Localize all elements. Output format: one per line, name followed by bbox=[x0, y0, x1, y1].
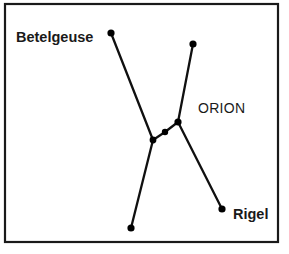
star-point-betelgeuse bbox=[107, 29, 114, 36]
star-point-belt-left bbox=[150, 137, 157, 144]
label-betelgeuse: Betelgeuse bbox=[16, 29, 93, 45]
orion-constellation-figure: BetelgeuseORIONRigel bbox=[0, 0, 289, 254]
star-point-rigel bbox=[218, 205, 225, 212]
star-point-belt-middle bbox=[162, 129, 168, 135]
constellation-chart: BetelgeuseORIONRigel bbox=[0, 0, 289, 254]
label-orion: ORION bbox=[198, 100, 245, 116]
label-rigel: Rigel bbox=[233, 206, 268, 222]
star-point-belt-right bbox=[174, 118, 181, 125]
caption-partial-text bbox=[150, 245, 289, 254]
star-point-saiph bbox=[127, 224, 134, 231]
star-point-bellatrix bbox=[189, 40, 196, 47]
